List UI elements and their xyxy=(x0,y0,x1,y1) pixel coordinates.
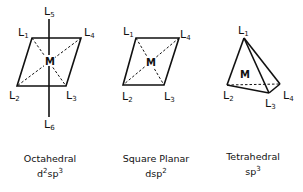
ligand-label-l3: L3 xyxy=(164,90,175,104)
ligand-label-l2: L2 xyxy=(9,89,20,103)
edge-l2-l3 xyxy=(227,85,269,93)
tetrahedral-figure: M L1 L2 L3 L4 xyxy=(223,24,294,111)
ligand-label-l1: L1 xyxy=(238,24,249,38)
octahedral-caption: Octahedral xyxy=(24,153,77,164)
tetrahedral-caption: Tetrahedral xyxy=(225,151,280,162)
ligand-label-l5: L5 xyxy=(44,5,55,19)
ligand-label-l4: L4 xyxy=(180,28,191,42)
metal-center-label: M xyxy=(240,69,250,80)
octahedral-figure: M L5 L1 L4 L2 L3 L6 xyxy=(9,5,95,132)
coordination-geometry-diagram: M L5 L1 L4 L2 L3 L6 M L1 L4 L2 L3 M L1 L… xyxy=(0,0,303,192)
ligand-label-l2: L2 xyxy=(223,89,234,103)
ligand-label-l4: L4 xyxy=(84,26,95,40)
ligand-label-l3: L3 xyxy=(66,89,77,103)
ligand-label-l1: L1 xyxy=(18,26,29,40)
ligand-label-l3: L3 xyxy=(265,97,276,111)
ligand-label-l6: L6 xyxy=(44,118,55,132)
square-planar-hybridization: dsp2 xyxy=(145,167,166,179)
metal-center-label: M xyxy=(45,56,55,67)
edge-l3-l4 xyxy=(269,84,280,93)
square-planar-figure: M L1 L4 L2 L3 xyxy=(122,25,191,104)
tetrahedral-hybridization: sp3 xyxy=(245,165,260,177)
ligand-label-l4: L4 xyxy=(283,89,294,103)
octahedral-hybridization: d2sp3 xyxy=(37,167,63,179)
metal-center-label: M xyxy=(146,57,156,68)
square-planar-caption: Square Planar xyxy=(123,153,189,164)
ligand-label-l1: L1 xyxy=(123,25,134,39)
edge-l2-l4-hidden xyxy=(227,84,280,85)
ligand-label-l2: L2 xyxy=(122,90,133,104)
